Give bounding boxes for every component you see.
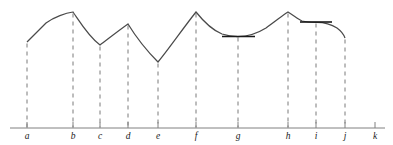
axis-tick-group [27,122,375,128]
graph-canvas: abcdefghijk [0,0,393,145]
axis-label-group: abcdefghijk [25,131,378,141]
axis-label-d: d [126,131,131,141]
axis-label-c: c [98,131,103,141]
axis-label-h: h [286,131,291,141]
axis-label-b: b [71,131,76,141]
axis-label-j: j [342,131,347,141]
function-curve [27,12,345,62]
dashed-dropline-group [27,14,345,128]
axis-label-g: g [236,131,241,141]
axis-label-f: f [195,131,199,141]
axis-label-k: k [373,131,378,141]
calculus-graph-figure: abcdefghijk [0,0,393,145]
axis-label-a: a [25,131,30,141]
axis-label-i: i [315,131,318,141]
axis-label-e: e [156,131,160,141]
